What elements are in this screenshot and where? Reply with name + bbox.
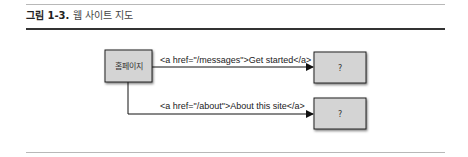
node-homepage-label: 홈페이지 bbox=[115, 61, 143, 71]
site-map-diagram: <a href="/messages">Get started</a> <a h… bbox=[0, 0, 468, 157]
node-target-2-label: ? bbox=[338, 110, 342, 119]
edge-label-get-started: <a href="/messages">Get started</a> bbox=[160, 55, 311, 65]
node-homepage: 홈페이지 bbox=[105, 50, 152, 82]
node-target-1-label: ? bbox=[338, 64, 342, 73]
bottom-rule bbox=[26, 152, 445, 153]
node-target-2: ? bbox=[314, 98, 366, 129]
node-target-1: ? bbox=[314, 52, 366, 83]
edge-label-about: <a href="/about">About this site</a> bbox=[160, 101, 305, 111]
